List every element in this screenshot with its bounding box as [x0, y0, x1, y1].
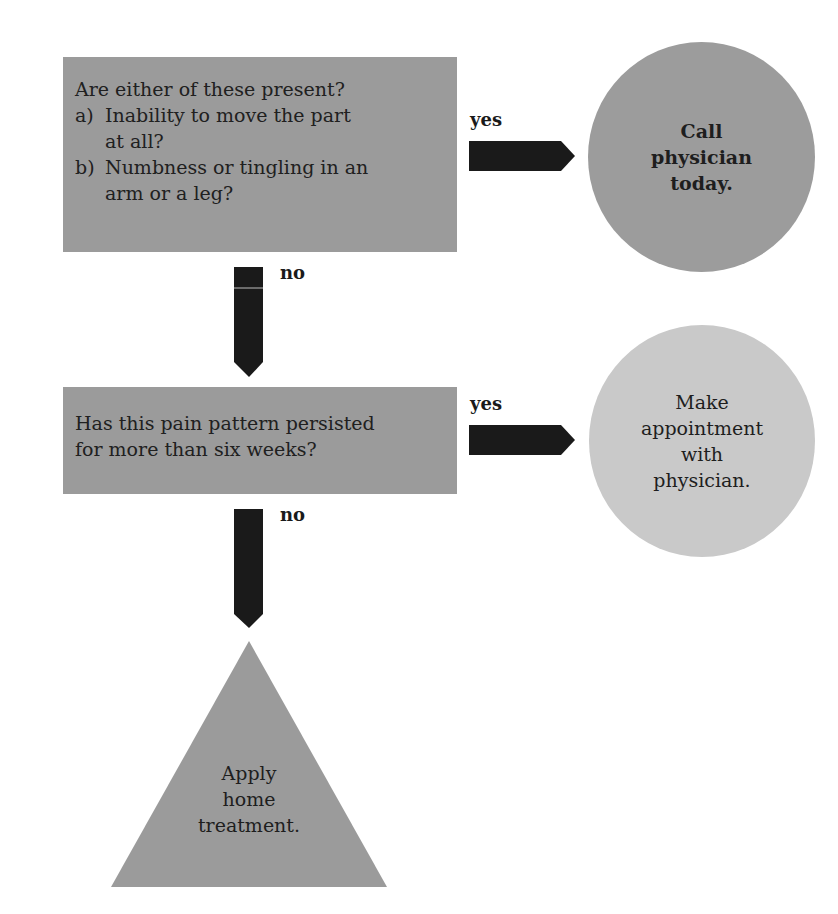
- outcome-line: appointment: [641, 415, 763, 441]
- decision-box-1: Are either of these present? a) Inabilit…: [63, 57, 457, 252]
- edge-label-q1-yes: yes: [470, 109, 502, 130]
- no-arrow-2: [234, 509, 263, 628]
- outcome-line: Apply: [169, 760, 329, 786]
- item-marker: b): [75, 154, 105, 206]
- edge-label-q2-yes: yes: [470, 393, 502, 414]
- yes-arrow-2: [469, 425, 575, 455]
- no-arrow-1: [234, 267, 263, 377]
- outcome-line: treatment.: [169, 812, 329, 838]
- decision-box-2: Has this pain pattern persisted for more…: [63, 387, 457, 494]
- question1-item-a: a) Inability to move the part at all?: [75, 102, 457, 154]
- item-line: at all?: [105, 128, 351, 154]
- question1-item-b: b) Numbness or tingling in an arm or a l…: [75, 154, 457, 206]
- outcome-home-treatment-text: Apply home treatment.: [169, 760, 329, 838]
- question1-title: Are either of these present?: [75, 76, 457, 102]
- outcome-call-physician-circle: Call physician today.: [588, 42, 815, 272]
- edge-label-q1-no: no: [280, 262, 305, 283]
- outcome-line: physician.: [641, 467, 763, 493]
- edge-label-q2-no: no: [280, 504, 305, 525]
- outcome-line: physician: [651, 144, 752, 170]
- item-line: Numbness or tingling in an: [105, 154, 368, 180]
- outcome-line: home: [169, 786, 329, 812]
- item-marker: a): [75, 102, 105, 154]
- item-line: arm or a leg?: [105, 180, 368, 206]
- outcome-line: Make: [641, 389, 763, 415]
- outcome-line: with: [641, 441, 763, 467]
- yes-arrow-1: [469, 141, 575, 171]
- question2-line: for more than six weeks?: [75, 436, 457, 462]
- item-line: Inability to move the part: [105, 102, 351, 128]
- outcome-appointment-circle: Make appointment with physician.: [589, 325, 815, 557]
- outcome-line: Call: [651, 118, 752, 144]
- outcome-line: today.: [651, 170, 752, 196]
- question2-line: Has this pain pattern persisted: [75, 410, 457, 436]
